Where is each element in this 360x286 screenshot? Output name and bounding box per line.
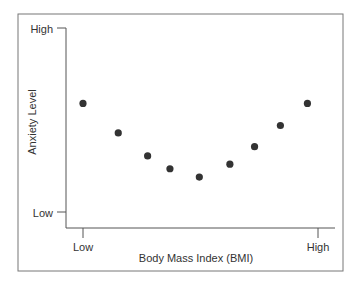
axes xyxy=(57,28,335,238)
x-axis-label: Body Mass Index (BMI) xyxy=(139,252,253,264)
data-point xyxy=(144,152,151,159)
y-tick-label-low: Low xyxy=(33,207,53,219)
x-tick-label-low: Low xyxy=(73,241,93,253)
y-tick-label-high: High xyxy=(30,23,53,35)
data-point xyxy=(277,122,284,129)
data-point xyxy=(304,100,311,107)
data-points xyxy=(79,100,311,181)
scatter-chart: High Low Low High Body Mass Index (BMI) … xyxy=(0,0,360,286)
data-point xyxy=(196,173,203,180)
chart-frame xyxy=(18,14,343,271)
data-point xyxy=(226,161,233,168)
data-point xyxy=(166,165,173,172)
x-tick-label-high: High xyxy=(307,241,330,253)
data-point xyxy=(79,100,86,107)
y-axis-label: Anxiety Level xyxy=(26,89,38,154)
data-point xyxy=(115,129,122,136)
data-point xyxy=(251,143,258,150)
